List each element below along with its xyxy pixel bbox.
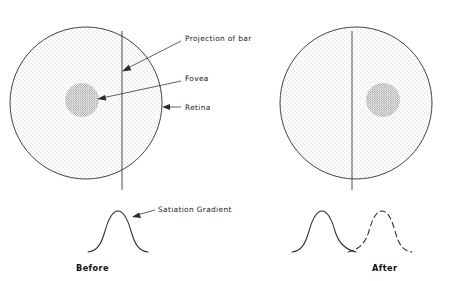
retina-disc-after (280, 27, 432, 179)
diagram-canvas: Projection of bar Fovea Retina Satiation… (0, 0, 470, 281)
annotation-satiation-gradient: Satiation Gradient (132, 205, 232, 218)
satiation-curve-after-dashed (348, 211, 412, 252)
satiation-curve-after-solid (292, 211, 356, 252)
panel-after (280, 27, 432, 252)
label-fovea: Fovea (185, 74, 209, 83)
retina-satiation-diagram: Projection of bar Fovea Retina Satiation… (0, 0, 470, 281)
label-projection-of-bar: Projection of bar (185, 34, 252, 43)
annotation-retina: Retina (162, 103, 211, 112)
arrowhead-satiation-icon (132, 212, 141, 218)
fovea-disc-after (366, 83, 400, 117)
arrowhead-retina-icon (162, 104, 170, 110)
caption-before: Before (76, 263, 109, 273)
caption-after: After (372, 263, 398, 273)
label-satiation-gradient: Satiation Gradient (158, 205, 232, 214)
leader-line-satiation (137, 210, 155, 215)
fovea-disc-before (65, 83, 99, 117)
label-retina: Retina (185, 103, 211, 112)
panel-before (10, 27, 162, 252)
